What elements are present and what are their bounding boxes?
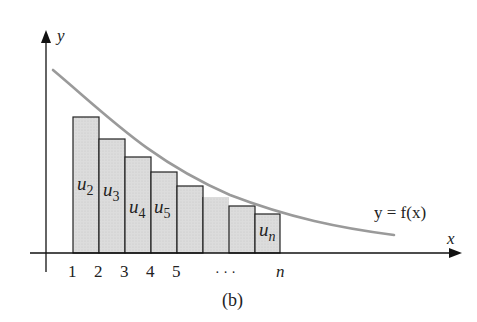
curve-label: y = f(x) <box>374 203 426 222</box>
tick-ellipsis: · · · <box>215 265 236 280</box>
tick-label: 3 <box>120 262 129 281</box>
tick-label: 4 <box>146 262 155 281</box>
tick-label: 2 <box>94 262 103 281</box>
bar-7 <box>203 197 229 253</box>
tick-labels: 1 2 3 4 5 · · · n <box>68 262 285 281</box>
bar-8 <box>229 206 255 253</box>
x-axis-arrow-icon <box>449 248 462 258</box>
tick-label: 5 <box>172 262 181 281</box>
y-axis-label: y <box>55 26 65 45</box>
tick-label: 1 <box>68 262 77 281</box>
tick-label: n <box>276 262 285 281</box>
bar-6 <box>177 186 203 253</box>
diagram-canvas: y x y = f(x) 1 2 3 4 5 · · · n u2 u3 u4 … <box>0 0 477 322</box>
y-axis-arrow-icon <box>41 30 51 43</box>
figure-caption: (b) <box>222 290 243 311</box>
x-axis-label: x <box>446 229 455 248</box>
integral-test-diagram: y x y = f(x) 1 2 3 4 5 · · · n u2 u3 u4 … <box>0 0 477 322</box>
